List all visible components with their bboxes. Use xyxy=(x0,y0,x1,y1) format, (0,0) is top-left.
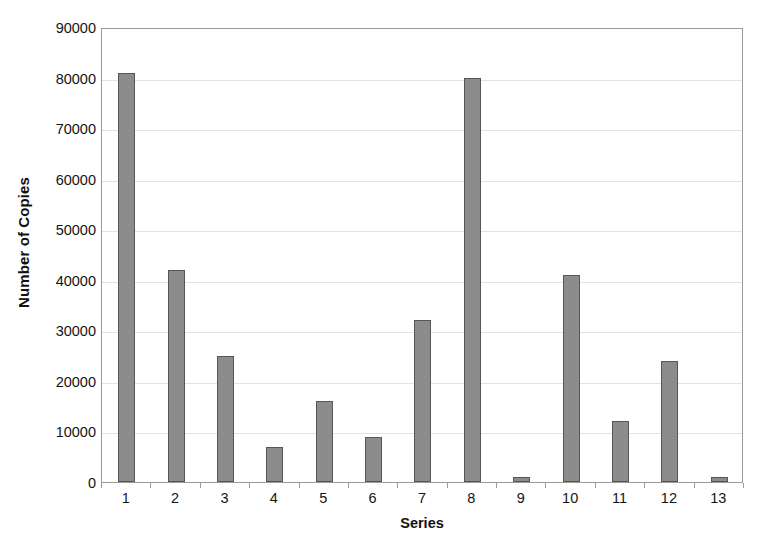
bar-slot xyxy=(497,29,546,482)
bar[interactable] xyxy=(661,361,678,482)
x-tick-mark xyxy=(397,483,398,488)
bar-slot xyxy=(201,29,250,482)
x-tick-label: 7 xyxy=(397,490,447,506)
bar[interactable] xyxy=(217,356,234,482)
x-tick-label: 3 xyxy=(199,490,249,506)
bar-slot xyxy=(151,29,200,482)
y-tick-label: 10000 xyxy=(34,424,96,440)
bar-slot xyxy=(645,29,694,482)
y-axis-tick-labels: 0100002000030000400005000060000700008000… xyxy=(34,0,96,557)
bar-slot xyxy=(448,29,497,482)
bar-slot xyxy=(102,29,151,482)
y-tick-label: 60000 xyxy=(34,172,96,188)
bar-slot xyxy=(398,29,447,482)
y-tick-label: 0 xyxy=(34,475,96,491)
x-tick-mark xyxy=(644,483,645,488)
bar[interactable] xyxy=(316,401,333,482)
y-tick-label: 70000 xyxy=(34,121,96,137)
bar[interactable] xyxy=(365,437,382,483)
plot-area xyxy=(101,28,743,483)
x-tick-label: 1 xyxy=(101,490,151,506)
x-tick-mark xyxy=(496,483,497,488)
x-tick-label: 13 xyxy=(693,490,743,506)
bar-slot xyxy=(546,29,595,482)
x-tick-mark xyxy=(200,483,201,488)
bar-slot xyxy=(596,29,645,482)
x-tick-label: 8 xyxy=(446,490,496,506)
x-tick-label: 9 xyxy=(496,490,546,506)
y-tick-label: 80000 xyxy=(34,71,96,87)
bar-slot xyxy=(349,29,398,482)
x-tick-mark xyxy=(101,483,102,488)
x-tick-mark xyxy=(150,483,151,488)
bar-slot xyxy=(300,29,349,482)
x-axis-tick-labels: 12345678910111213 xyxy=(101,490,743,512)
x-tick-label: 5 xyxy=(298,490,348,506)
x-tick-mark xyxy=(249,483,250,488)
x-tick-mark xyxy=(348,483,349,488)
x-tick-label: 6 xyxy=(348,490,398,506)
x-tick-label: 10 xyxy=(545,490,595,506)
bars xyxy=(102,29,742,482)
bar-slot xyxy=(250,29,299,482)
bar[interactable] xyxy=(612,421,629,482)
x-axis-ticks xyxy=(101,483,743,489)
bar[interactable] xyxy=(513,477,530,482)
y-axis-title-text: Number of Copies xyxy=(15,177,32,308)
x-tick-mark xyxy=(743,483,744,488)
x-axis-title: Series xyxy=(101,515,743,531)
x-tick-mark xyxy=(595,483,596,488)
x-tick-mark xyxy=(545,483,546,488)
y-tick-label: 20000 xyxy=(34,374,96,390)
y-tick-label: 40000 xyxy=(34,273,96,289)
bar-chart: Number of Copies 01000020000300004000050… xyxy=(0,0,759,557)
bar[interactable] xyxy=(563,275,580,482)
bar[interactable] xyxy=(266,447,283,482)
bar[interactable] xyxy=(464,78,481,482)
x-tick-mark xyxy=(299,483,300,488)
x-tick-label: 12 xyxy=(644,490,694,506)
y-tick-label: 30000 xyxy=(34,323,96,339)
x-tick-label: 2 xyxy=(150,490,200,506)
y-tick-label: 50000 xyxy=(34,222,96,238)
x-tick-label: 11 xyxy=(595,490,645,506)
bar[interactable] xyxy=(118,73,135,483)
bar-slot xyxy=(695,29,744,482)
x-tick-mark xyxy=(694,483,695,488)
bar[interactable] xyxy=(168,270,185,482)
x-tick-label: 4 xyxy=(249,490,299,506)
bar[interactable] xyxy=(414,320,431,482)
x-tick-mark xyxy=(447,483,448,488)
y-tick-label: 90000 xyxy=(34,20,96,36)
bar[interactable] xyxy=(711,477,728,482)
